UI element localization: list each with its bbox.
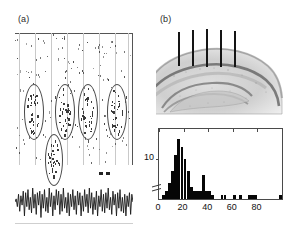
spike-mark (22, 119, 23, 120)
raster-gridline (128, 33, 129, 165)
lfp-baseline (15, 223, 133, 224)
place-field-ellipse (78, 84, 98, 140)
spike-mark (115, 143, 116, 146)
spike-mark (44, 42, 45, 44)
spike-mark (88, 140, 89, 143)
spike-mark (104, 53, 105, 54)
spike-mark (106, 53, 107, 55)
spike-mark (116, 52, 117, 54)
x-tick (184, 129, 185, 132)
spike-mark (121, 70, 122, 72)
place-field-ellipse (45, 134, 63, 186)
spike-mark (40, 159, 41, 161)
spike-mark (23, 139, 24, 141)
spike-mark (88, 149, 89, 150)
spike-mark (77, 126, 78, 128)
y-tick-label: 10 (134, 152, 154, 162)
electrode-track (220, 30, 222, 67)
x-tick (233, 129, 234, 132)
spike-mark (64, 38, 65, 40)
spike-mark (104, 123, 105, 125)
spike-mark (62, 38, 63, 40)
spike-mark (56, 38, 57, 39)
spike-mark (53, 34, 54, 36)
spike-mark (105, 161, 106, 163)
spike-mark (109, 137, 110, 139)
spike-mark (115, 45, 116, 47)
figure-canvas: (a) (b) (0, 0, 289, 240)
spike-mark (50, 117, 51, 119)
spike-mark (126, 144, 127, 146)
spike-mark (103, 56, 104, 58)
panel-c: (c) 10 020406080 (146, 122, 289, 240)
spike-mark (45, 136, 46, 138)
spike-mark (29, 77, 30, 79)
spike-mark (79, 72, 80, 74)
panel-a: (a) (0, 0, 146, 240)
spike-mark (91, 162, 92, 164)
spike-mark (99, 51, 100, 53)
spike-mark (95, 47, 96, 49)
x-tick (257, 129, 258, 132)
theta-lfp-trace (15, 182, 133, 226)
place-field-ellipse (107, 84, 127, 140)
histogram-bar (211, 195, 214, 199)
spike-mark (26, 43, 27, 46)
scale-bar (99, 172, 111, 175)
x-tick-label: 80 (246, 202, 266, 212)
histogram-bar (224, 195, 227, 199)
histogram-bar (239, 195, 242, 199)
spike-mark (72, 136, 73, 138)
spike-mark (68, 61, 69, 63)
spike-mark (24, 143, 25, 145)
spike-mark (51, 100, 52, 102)
y-tick (156, 159, 159, 160)
spike-mark (40, 57, 41, 58)
spike-mark (128, 111, 129, 113)
spike-mark (98, 46, 99, 48)
histogram-axes-frame (158, 128, 283, 200)
spike-mark (79, 146, 80, 148)
spike-mark (93, 68, 94, 69)
spike-mark (105, 115, 106, 117)
spike-mark (107, 135, 108, 137)
x-tick (159, 129, 160, 132)
spike-mark (124, 76, 125, 78)
spike-mark (19, 135, 20, 136)
spike-mark (82, 70, 83, 72)
spike-mark (99, 149, 100, 150)
spike-mark (39, 76, 40, 78)
spike-mark (111, 41, 112, 43)
x-tick-label: 60 (222, 202, 242, 212)
electrode-track (178, 32, 180, 66)
spike-mark (106, 152, 107, 154)
spike-mark (108, 79, 109, 81)
spike-mark (102, 99, 103, 101)
spike-mark (23, 90, 24, 92)
spike-mark (45, 120, 46, 122)
spike-mark (87, 145, 88, 147)
spike-mark (89, 154, 90, 155)
x-tick-label: 40 (197, 202, 217, 212)
spike-mark (98, 75, 99, 76)
spike-mark (36, 59, 37, 60)
spike-mark (71, 68, 72, 70)
spike-mark (100, 75, 101, 77)
x-tick (208, 129, 209, 132)
raster-right-axis (132, 33, 134, 165)
panel-b: (b) (146, 0, 289, 122)
spike-mark (77, 67, 78, 68)
spike-mark (43, 134, 44, 136)
x-tick-label: 20 (173, 202, 193, 212)
spike-mark (78, 48, 79, 50)
spike-mark (66, 70, 67, 72)
spike-mark (28, 72, 29, 73)
spike-mark (65, 71, 66, 74)
spike-mark (103, 79, 104, 81)
spike-mark (75, 124, 76, 126)
raster-gridline (19, 33, 20, 165)
spike-mark (129, 118, 130, 119)
spike-mark (49, 111, 50, 113)
spike-mark (26, 71, 27, 72)
electrode-track (206, 29, 208, 67)
